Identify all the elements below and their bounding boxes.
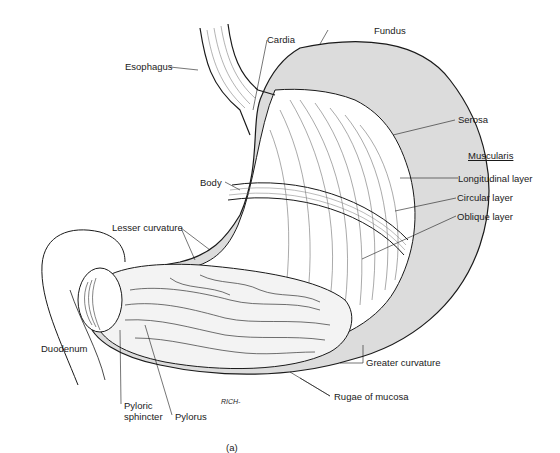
label-rugae-of-mucosa: Rugae of mucosa (334, 391, 408, 402)
label-muscularis: Muscularis (468, 150, 513, 161)
label-pylorus: Pylorus (175, 411, 207, 422)
label-longitudinal-layer: Longitudinal layer (458, 173, 532, 184)
label-esophagus: Esophagus (125, 61, 173, 72)
label-cardia: Cardia (267, 34, 295, 45)
label-oblique-layer: Oblique layer (457, 211, 513, 222)
label-greater-curvature: Greater curvature (366, 357, 440, 368)
label-fundus: Fundus (374, 25, 406, 36)
label-circular-layer: Circular layer (457, 192, 513, 203)
figure-caption: (a) (226, 442, 238, 453)
label-body: Body (200, 177, 222, 188)
artist-signature: RICH- (221, 396, 240, 407)
label-serosa: Serosa (458, 114, 488, 125)
label-pyloric-sphincter-line1: Pyloric (124, 400, 153, 411)
label-pyloric-sphincter-line2: sphincter (124, 411, 163, 422)
label-duodenum: Duodenum (41, 343, 87, 354)
label-lesser-curvature: Lesser curvature (112, 222, 183, 233)
